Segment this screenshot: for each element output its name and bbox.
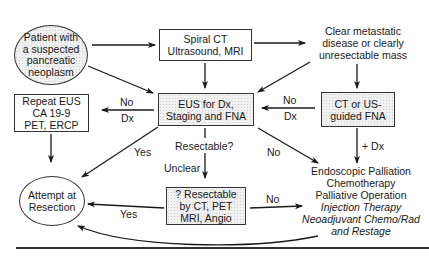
node-line: neoplasm — [28, 67, 74, 79]
edge-label-dx: Dx — [284, 110, 297, 122]
arrow-palliation-to-resection — [78, 226, 318, 245]
node-attempt-resection: Attempt at Resection — [19, 176, 85, 226]
edge-label-no: No — [266, 193, 279, 205]
arrow-resectableq-to-palliation — [250, 206, 302, 208]
node-patient-suspected-neoplasm: Patient with a suspected pancreatic neop… — [14, 25, 88, 85]
edge-label-dx: Dx — [121, 112, 134, 124]
node-eus-staging-fna: EUS for Dx, Staging and FNA — [158, 93, 254, 126]
node-line: disease or clearly — [322, 37, 404, 49]
node-line: Staging and FNA — [166, 110, 246, 122]
edge-label-yes: Yes — [120, 208, 137, 220]
arrow-metastatic-to-eus — [258, 62, 310, 92]
node-line: EUS for Dx, — [178, 98, 233, 110]
node-line: by CT, PET — [179, 200, 232, 212]
node-clear-metastatic: Clear metastatic disease or clearly unre… — [307, 24, 419, 62]
node-line: Palliative Operation — [315, 189, 406, 201]
edge-label-plus-dx: + Dx — [362, 140, 384, 152]
node-line: MRI, Angio — [180, 212, 231, 224]
node-line: Patient with — [24, 32, 78, 44]
edge-label-resectable: Resectable? — [175, 140, 233, 152]
node-line: CA 19-9 — [33, 107, 71, 119]
node-line: Spiral CT — [184, 33, 228, 45]
node-repeat-eus: Repeat EUS CA 19-9 PET, ERCP — [14, 94, 89, 132]
node-line: ? Resectable — [175, 188, 236, 200]
node-line: Endoscopic Palliation — [311, 165, 411, 177]
node-line: Resection — [29, 201, 76, 213]
node-line: Clear metastatic — [325, 25, 401, 37]
node-line: Ultrasound, MRI — [168, 45, 244, 57]
node-line: Repeat EUS — [22, 95, 80, 107]
node-line: pancreatic — [27, 55, 75, 67]
node-palliation-options: Endoscopic Palliation Chemotherapy Palli… — [296, 165, 426, 237]
node-line: Chemotherapy — [327, 177, 396, 189]
node-line: PET, ERCP — [24, 119, 78, 131]
edge-label-yes: Yes — [134, 146, 151, 158]
node-line-italic: and Restage — [331, 225, 391, 237]
node-line: Attempt at — [28, 189, 76, 201]
node-ct-us-guided-fna: CT or US- guided FNA — [321, 92, 395, 127]
node-line: unresectable mass — [319, 49, 407, 61]
node-line: guided FNA — [330, 110, 385, 122]
edge-label-no: No — [120, 96, 133, 108]
arrow-start-to-eus — [88, 66, 153, 93]
node-imaging: Spiral CT Ultrasound, MRI — [159, 29, 252, 61]
node-line-italic: Neoadjuvant Chemo/Rad — [302, 213, 420, 225]
flowchart-canvas: Patient with a suspected pancreatic neop… — [0, 0, 429, 261]
node-resectable-question: ? Resectable by CT, PET MRI, Angio — [166, 187, 246, 225]
edge-label-no: No — [283, 94, 296, 106]
node-line: CT or US- — [334, 98, 381, 110]
edge-label-unclear: Unclear — [164, 162, 200, 174]
bottom-rule — [16, 247, 429, 249]
edge-label-no: No — [267, 146, 280, 158]
node-line-italic: Injection Therapy — [321, 201, 402, 213]
